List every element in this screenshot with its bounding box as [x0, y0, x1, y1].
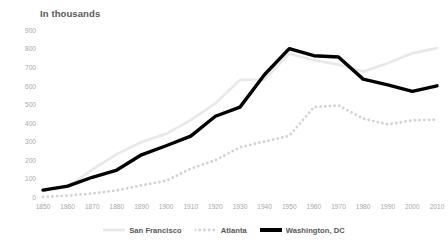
x-tick-label: 1920 [208, 203, 223, 210]
x-tick-label: 1900 [159, 203, 174, 210]
legend-label: San Francisco [129, 226, 182, 235]
population-line-chart: In thousands 010020030040050060070080090… [0, 0, 448, 242]
y-tick-label: 200 [25, 157, 36, 164]
dotted-line-swatch [195, 226, 217, 234]
y-axis-tick-labels: 0100200300400500600700800900 [25, 27, 36, 201]
x-tick-label: 2010 [430, 203, 445, 210]
y-tick-label: 900 [25, 27, 36, 34]
x-tick-label: 1930 [233, 203, 248, 210]
x-axis-tick-labels: 1850186018701880189019001910192019301940… [36, 203, 445, 210]
y-tick-label: 0 [32, 194, 36, 201]
x-tick-label: 1880 [110, 203, 125, 210]
legend-label: Atlanta [221, 226, 247, 235]
y-tick-label: 500 [25, 101, 36, 108]
y-tick-label: 700 [25, 64, 36, 71]
legend-label: Washington, DC [286, 226, 345, 235]
legend-item-washington-dc[interactable]: Washington, DC [260, 226, 345, 235]
y-tick-label: 300 [25, 138, 36, 145]
x-tick-label: 2000 [405, 203, 420, 210]
x-tick-label: 1960 [307, 203, 322, 210]
series-lines [43, 48, 437, 197]
x-tick-label: 1910 [183, 203, 198, 210]
x-tick-label: 1990 [380, 203, 395, 210]
series-line-washington-dc [43, 49, 437, 190]
bold-line-swatch [260, 226, 282, 234]
chart-legend: San FranciscoAtlantaWashington, DC [0, 222, 448, 238]
x-tick-label: 1970 [331, 203, 346, 210]
series-line-atlanta [43, 105, 437, 197]
y-tick-label: 600 [25, 83, 36, 90]
x-tick-label: 1940 [257, 203, 272, 210]
x-tick-label: 1850 [36, 203, 51, 210]
legend-item-san-francisco[interactable]: San Francisco [103, 226, 182, 235]
x-tick-label: 1870 [85, 203, 100, 210]
series-line-san-francisco [43, 48, 437, 191]
x-tick-label: 1860 [60, 203, 75, 210]
solid-line-swatch [103, 226, 125, 234]
x-tick-label: 1890 [134, 203, 149, 210]
x-tick-label: 1980 [356, 203, 371, 210]
y-tick-label: 800 [25, 45, 36, 52]
legend-item-atlanta[interactable]: Atlanta [195, 226, 247, 235]
y-tick-label: 400 [25, 120, 36, 127]
x-tick-label: 1950 [282, 203, 297, 210]
y-tick-label: 100 [25, 175, 36, 182]
chart-plot-area: 0100200300400500600700800900 18501860187… [0, 0, 448, 242]
